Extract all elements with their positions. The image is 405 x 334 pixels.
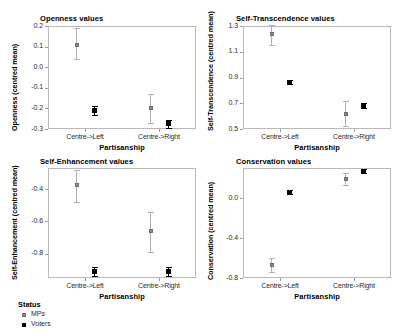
y-tick-label: -0.8 [14, 249, 43, 256]
x-tick-mark [280, 129, 281, 132]
plot-area [243, 168, 391, 278]
data-point-marker-mps [149, 229, 153, 233]
y-tick-mark [45, 67, 48, 68]
x-tick-mark [85, 129, 86, 132]
data-point-marker-mps [270, 263, 274, 267]
error-bar-cap [343, 185, 349, 186]
y-tick-label: 0.0 [14, 63, 43, 70]
x-tick-label: Centre->Right [318, 133, 390, 140]
y-tick-mark [45, 129, 48, 130]
y-tick-label: 0.7 [209, 99, 238, 106]
data-point-marker-voters [166, 269, 171, 274]
y-tick-mark [240, 198, 243, 199]
y-tick-label: 0.9 [209, 73, 238, 80]
y-tick-label: 0.0 [209, 194, 238, 201]
error-bar-cap [269, 272, 275, 273]
error-bar-cap [343, 101, 349, 102]
y-tick-label: -0.3 [14, 125, 43, 132]
y-axis-title: Self-Transcendence (centred mean) [206, 11, 215, 131]
data-point-marker-voters [361, 169, 366, 174]
cut-off-header-text [0, 0, 405, 5]
y-tick-mark [45, 47, 48, 48]
y-tick-mark [45, 221, 48, 222]
x-tick-label: Centre->Right [318, 282, 390, 289]
x-axis-title: Partisanship [243, 292, 391, 301]
error-bar-cap [74, 202, 80, 203]
y-tick-mark [240, 52, 243, 53]
panel-title: Self-Transcendence values [236, 14, 335, 23]
error-bar-cap [148, 123, 154, 124]
y-tick-mark [45, 254, 48, 255]
data-point-marker-mps [149, 106, 153, 110]
y-tick-mark [240, 78, 243, 79]
y-tick-mark [240, 103, 243, 104]
x-tick-mark [354, 129, 355, 132]
data-point-marker-mps [270, 32, 274, 36]
plot-area [48, 26, 196, 129]
x-axis-title: Partisanship [48, 292, 196, 301]
x-axis-title: Partisanship [48, 143, 196, 152]
plot-area [48, 168, 196, 278]
error-bar-cap [269, 25, 275, 26]
x-tick-label: Centre->Right [123, 282, 195, 289]
data-point-marker-voters [92, 269, 97, 274]
error-bar-cap [148, 252, 154, 253]
error-bar-cap [166, 276, 172, 277]
data-point-marker-mps [344, 177, 348, 181]
y-tick-mark [240, 238, 243, 239]
x-tick-mark [280, 278, 281, 281]
y-tick-label: 0.1 [14, 42, 43, 49]
error-bar-cap [361, 108, 367, 109]
y-tick-mark [240, 129, 243, 130]
y-tick-mark [240, 26, 243, 27]
error-bar-cap [343, 173, 349, 174]
error-bar-cap [92, 276, 98, 277]
data-point-marker-mps [75, 183, 79, 187]
panel-title: Openness values [40, 14, 103, 23]
y-tick-label: -0.1 [14, 83, 43, 90]
error-bar-cap [92, 115, 98, 116]
x-tick-label: Centre->Left [244, 282, 316, 289]
panel-title: Self-Enhancement values [40, 157, 133, 166]
y-tick-mark [45, 189, 48, 190]
y-tick-label: -0.8 [209, 274, 238, 281]
y-tick-label: 0.5 [209, 125, 238, 132]
x-axis-title: Partisanship [243, 143, 391, 152]
x-tick-label: Centre->Left [244, 133, 316, 140]
x-tick-mark [85, 278, 86, 281]
legend-label-voters: Voters [31, 320, 51, 327]
error-bar-cap [74, 170, 80, 171]
y-tick-label: -0.4 [209, 234, 238, 241]
error-bar-cap [166, 128, 172, 129]
x-tick-label: Centre->Left [49, 282, 121, 289]
y-tick-label: -0.6 [14, 217, 43, 224]
error-bar-cap [74, 59, 80, 60]
y-tick-label: 0.2 [14, 22, 43, 29]
data-point-marker-voters [287, 80, 292, 85]
data-point-marker-voters [92, 108, 97, 113]
x-tick-label: Centre->Right [123, 133, 195, 140]
values-by-partisanship-figure: Openness valuesOpenness (centred mean)0.… [0, 0, 405, 334]
y-tick-label: 1.3 [209, 22, 238, 29]
plot-area [243, 26, 391, 129]
y-tick-mark [45, 88, 48, 89]
data-point-marker-mps [75, 43, 79, 47]
error-bar-cap [269, 45, 275, 46]
data-point-marker-voters [166, 121, 171, 126]
x-tick-mark [159, 278, 160, 281]
data-point-marker-voters [287, 190, 292, 195]
y-tick-label: -0.2 [14, 104, 43, 111]
x-tick-label: Centre->Left [49, 133, 121, 140]
y-tick-mark [240, 278, 243, 279]
y-tick-mark [45, 26, 48, 27]
x-tick-mark [159, 129, 160, 132]
panel-title: Conservation values [236, 157, 311, 166]
error-bar-cap [148, 212, 154, 213]
error-bar-cap [343, 126, 349, 127]
data-point-marker-mps [344, 112, 348, 116]
legend-title: Status [18, 300, 41, 309]
data-point-marker-voters [361, 103, 366, 108]
x-tick-mark [354, 278, 355, 281]
y-tick-label: -0.4 [14, 185, 43, 192]
legend-swatch-voters-icon [22, 323, 26, 327]
